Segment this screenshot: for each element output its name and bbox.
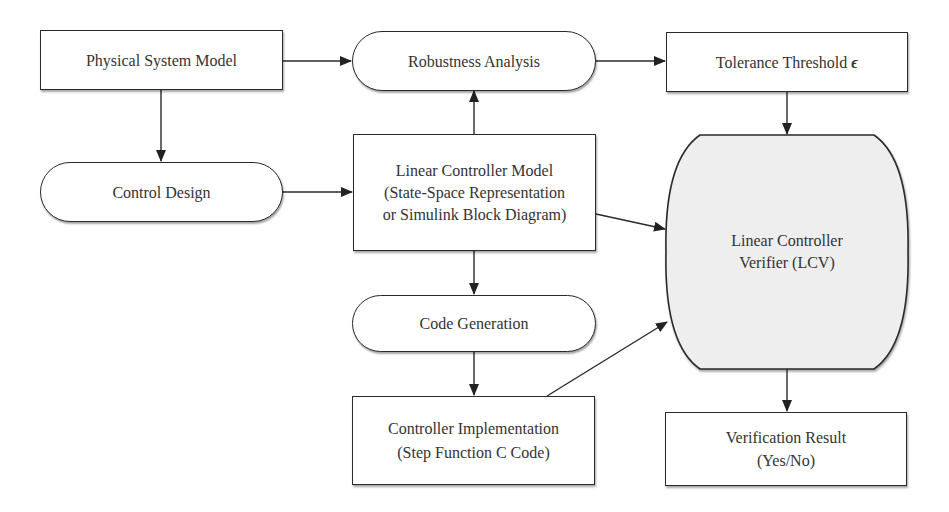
node-label-line-1: Controller Implementation [388, 417, 559, 441]
node-robustness-analysis: Robustness Analysis [352, 31, 596, 91]
node-tolerance-threshold: Tolerance Threshold ϵ [666, 32, 908, 92]
epsilon-symbol: ϵ [851, 54, 858, 71]
node-label: Tolerance Threshold ϵ [716, 52, 858, 73]
node-label-line-1: Linear Controller Model [396, 160, 553, 182]
node-label-line-1: Verification Result [726, 426, 846, 449]
tolerance-label-text: Tolerance Threshold [716, 54, 847, 71]
node-controller-implementation: Controller Implementation (Step Function… [352, 396, 595, 485]
node-label: Code Generation [420, 313, 529, 334]
node-label-line-1: Linear Controller [731, 230, 843, 252]
node-label: Physical System Model [86, 50, 237, 71]
node-label: Control Design [112, 182, 210, 203]
node-label-line-3: or Simulink Block Diagram) [383, 204, 567, 226]
node-code-generation: Code Generation [352, 295, 596, 352]
node-control-design: Control Design [40, 162, 283, 222]
node-lcv: Linear Controller Verifier (LCV) [666, 135, 908, 369]
node-label-line-2: (Step Function C Code) [397, 441, 549, 465]
node-label-line-2: (Yes/No) [757, 449, 815, 472]
node-label: Robustness Analysis [408, 51, 540, 72]
node-label-line-2: Verifier (LCV) [739, 252, 835, 274]
node-linear-controller-model: Linear Controller Model (State-Space Rep… [353, 134, 596, 251]
node-label-line-2: (State-Space Representation [384, 182, 565, 204]
edge-lcm-to-lcv [596, 214, 665, 229]
node-verification-result: Verification Result (Yes/No) [665, 412, 907, 486]
node-physical-system-model: Physical System Model [40, 30, 283, 90]
